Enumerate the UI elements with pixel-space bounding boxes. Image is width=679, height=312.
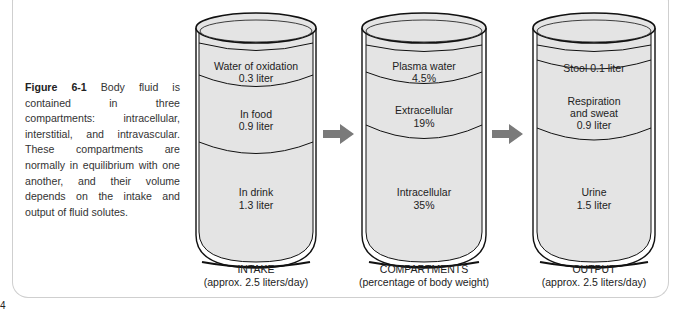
intake-layer-2-name: In food (240, 108, 272, 120)
compartments-layer-2-name: Extracellular (395, 104, 453, 116)
right-arrow-icon (323, 124, 354, 144)
compartments-cylinder (362, 13, 486, 268)
intake-layer-3-name: In drink (239, 186, 274, 198)
intake-layer-1-name: Water of oxidation (214, 60, 298, 72)
output-subtitle: (approx. 2.5 liters/day) (542, 276, 646, 288)
output-layer-2-value2: 0.9 liter (577, 119, 612, 131)
output-cylinder (533, 13, 655, 268)
output-layer-1-name: Stool 0.1 liter (563, 62, 625, 74)
compartments-layer-3-name: Intracellular (397, 186, 452, 198)
output-layer-3-value: 1.5 liter (577, 199, 612, 211)
output-layer-2-name: Respiration (567, 95, 620, 107)
compartments-layer-2-value: 19% (413, 117, 434, 129)
compartments-layer-1-name: Plasma water (392, 60, 456, 72)
intake-title: INTAKE (237, 263, 274, 275)
intake-layer-3-value: 1.3 liter (239, 199, 274, 211)
right-arrow-icon (492, 124, 523, 144)
intake-cylinder (196, 13, 316, 268)
body-fluid-diagram: Water of oxidation 0.3 liter In food 0.9… (0, 0, 679, 312)
intake-subtitle: (approx. 2.5 liters/day) (204, 276, 308, 288)
compartments-layer-3-value: 35% (413, 199, 434, 211)
output-layer-2-value: and sweat (570, 107, 618, 119)
compartments-subtitle: (percentage of body weight) (359, 276, 489, 288)
compartments-layer-1-value: 4.5% (412, 72, 436, 84)
intake-layer-1-value: 0.3 liter (239, 72, 274, 84)
intake-layer-2-value: 0.9 liter (239, 120, 274, 132)
compartments-title: COMPARTMENTS (380, 263, 468, 275)
output-title: OUTPUT (572, 263, 616, 275)
output-layer-3-name: Urine (581, 186, 606, 198)
